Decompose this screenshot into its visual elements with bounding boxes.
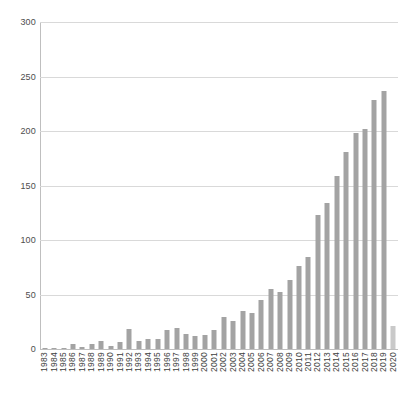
bar-slot (59, 22, 68, 349)
bar-2005[interactable] (249, 313, 254, 349)
bar-1995[interactable] (155, 339, 160, 349)
bar-1990[interactable] (108, 346, 113, 349)
bar-2001[interactable] (212, 330, 217, 349)
x-tick-label-2016: 2016 (351, 352, 360, 372)
bar-slot (266, 22, 275, 349)
bar-series (40, 22, 398, 349)
bar-slot (389, 22, 398, 349)
y-tick-label-250: 250 (0, 72, 36, 81)
bar-2019[interactable] (381, 91, 386, 349)
bar-2003[interactable] (231, 321, 236, 349)
bar-slot (172, 22, 181, 349)
bar-slot (68, 22, 77, 349)
bar-slot (40, 22, 49, 349)
bar-slot (210, 22, 219, 349)
bar-2006[interactable] (259, 300, 264, 349)
bar-1985[interactable] (61, 348, 66, 349)
bar-slot (134, 22, 143, 349)
bar-1987[interactable] (80, 347, 85, 349)
x-tick-label-2007: 2007 (266, 352, 275, 372)
bar-2002[interactable] (221, 317, 226, 349)
bar-slot (162, 22, 171, 349)
bar-2012[interactable] (315, 215, 320, 349)
bar-slot (78, 22, 87, 349)
bar-slot (323, 22, 332, 349)
bar-slot (313, 22, 322, 349)
bar-1998[interactable] (184, 334, 189, 349)
x-tick-label-1995: 1995 (153, 352, 162, 372)
bar-2018[interactable] (372, 100, 377, 349)
bar-slot (87, 22, 96, 349)
bar-slot (49, 22, 58, 349)
bar-slot (125, 22, 134, 349)
bar-1991[interactable] (118, 342, 123, 349)
bar-slot (106, 22, 115, 349)
bar-2014[interactable] (334, 176, 339, 349)
bar-slot (228, 22, 237, 349)
x-tick-label-1983: 1983 (40, 352, 49, 372)
bar-slot (294, 22, 303, 349)
bar-1989[interactable] (99, 341, 104, 349)
bar-slot (276, 22, 285, 349)
x-tick-label-2019: 2019 (379, 352, 388, 372)
bar-slot (219, 22, 228, 349)
bar-2000[interactable] (202, 335, 207, 349)
bar-slot (332, 22, 341, 349)
bar-slot (370, 22, 379, 349)
bar-2008[interactable] (278, 292, 283, 349)
bar-2020[interactable] (391, 326, 396, 349)
bar-1996[interactable] (165, 330, 170, 349)
x-tick-label-1997: 1997 (172, 352, 181, 372)
bar-slot (247, 22, 256, 349)
bar-2013[interactable] (325, 203, 330, 349)
bar-1984[interactable] (52, 348, 57, 349)
bar-2007[interactable] (268, 289, 273, 349)
x-tick-label-2009: 2009 (285, 352, 294, 372)
bar-slot (191, 22, 200, 349)
bar-slot (257, 22, 266, 349)
x-axis-labels: 1983198419851986198719881989199019911992… (40, 352, 398, 393)
y-tick-label-200: 200 (0, 127, 36, 136)
bar-slot (351, 22, 360, 349)
y-tick-label-300: 300 (0, 18, 36, 27)
bar-1986[interactable] (70, 344, 75, 349)
bar-slot (181, 22, 190, 349)
bar-2011[interactable] (306, 257, 311, 349)
bar-1988[interactable] (89, 344, 94, 349)
bar-1983[interactable] (42, 348, 47, 349)
x-tick-label-2020: 2020 (389, 352, 398, 372)
bar-slot (200, 22, 209, 349)
bar-chart: 050100150200250300 198319841985198619871… (0, 0, 405, 393)
y-tick-label-150: 150 (0, 181, 36, 190)
bar-1992[interactable] (127, 329, 132, 349)
bar-2017[interactable] (363, 129, 368, 349)
plot-area (40, 22, 398, 349)
bar-2004[interactable] (240, 311, 245, 349)
x-tick-label-2000: 2000 (200, 352, 209, 372)
bar-1993[interactable] (136, 341, 141, 349)
y-tick-label-0: 0 (0, 345, 36, 354)
bar-2010[interactable] (297, 266, 302, 349)
bar-slot (360, 22, 369, 349)
bar-2009[interactable] (287, 280, 292, 349)
bar-2015[interactable] (344, 152, 349, 349)
y-axis-labels: 050100150200250300 (0, 0, 36, 393)
bar-slot (153, 22, 162, 349)
bar-1997[interactable] (174, 328, 179, 349)
bar-slot (341, 22, 350, 349)
x-tick-label-2002: 2002 (219, 352, 228, 372)
bar-1994[interactable] (146, 339, 151, 349)
bar-slot (144, 22, 153, 349)
x-tick-label-2014: 2014 (332, 352, 341, 372)
bar-slot (97, 22, 106, 349)
bar-slot (238, 22, 247, 349)
bar-slot (115, 22, 124, 349)
x-tick-label-1990: 1990 (106, 352, 115, 372)
bar-1999[interactable] (193, 336, 198, 349)
bar-2016[interactable] (353, 133, 358, 349)
gridline-0 (40, 349, 398, 350)
bar-slot (379, 22, 388, 349)
bar-slot (304, 22, 313, 349)
y-tick-label-100: 100 (0, 236, 36, 245)
y-tick-label-50: 50 (0, 290, 36, 299)
